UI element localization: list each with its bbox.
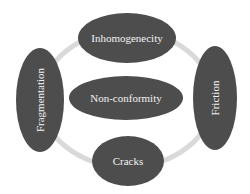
node-right-label: Friction	[209, 80, 221, 115]
node-center: Non-conformity	[69, 76, 183, 120]
node-left: Fragmentation	[16, 48, 64, 152]
node-center-label: Non-conformity	[90, 92, 162, 104]
node-bottom: Cracks	[92, 136, 164, 186]
node-bottom-label: Cracks	[113, 155, 144, 167]
node-right: Friction	[193, 46, 237, 150]
node-top: Inhomogenecity	[78, 13, 176, 63]
node-left-label: Fragmentation	[34, 67, 46, 132]
cycle-diagram: Inhomogenecity Fragmentation Friction Cr…	[0, 0, 250, 194]
node-top-label: Inhomogenecity	[91, 32, 163, 44]
